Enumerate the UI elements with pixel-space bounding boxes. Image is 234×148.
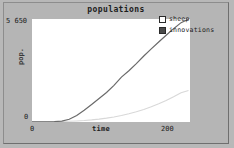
y-axis-min-tick-label: 0	[24, 113, 28, 121]
y-axis-max-tick-label: 5 650	[6, 17, 27, 25]
legend-item-label: innovations	[169, 26, 214, 34]
legend-item-sheep[interactable]: sheep	[159, 14, 225, 24]
x-axis-min-tick-label: 0	[30, 125, 34, 133]
legend-color-swatch-icon	[159, 27, 166, 34]
series-line-sheep	[32, 90, 189, 121]
page-title: populations	[4, 5, 228, 14]
legend-item-label: sheep	[169, 15, 190, 23]
legend-item-innovations[interactable]: innovations	[159, 25, 225, 35]
plot-widget[interactable]: populations 5 650 0 pop. 0 time 200 shee…	[3, 2, 229, 144]
y-axis-label: pop.	[17, 48, 25, 65]
x-axis-max-tick-label: 200	[161, 125, 174, 133]
plot-legend[interactable]: sheep innovations	[159, 14, 225, 36]
x-axis-label: time	[92, 125, 110, 133]
legend-color-swatch-icon	[159, 16, 166, 23]
